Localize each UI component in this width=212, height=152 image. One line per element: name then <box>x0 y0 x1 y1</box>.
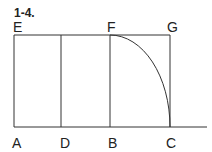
label-b: B <box>108 136 117 150</box>
label-d: D <box>60 136 70 150</box>
label-a: A <box>12 136 21 150</box>
label-g: G <box>167 20 178 34</box>
geometry-diagram <box>0 0 212 152</box>
arc-fc <box>110 35 170 127</box>
label-f: F <box>107 20 116 34</box>
label-c: C <box>166 136 176 150</box>
label-e: E <box>13 20 22 34</box>
